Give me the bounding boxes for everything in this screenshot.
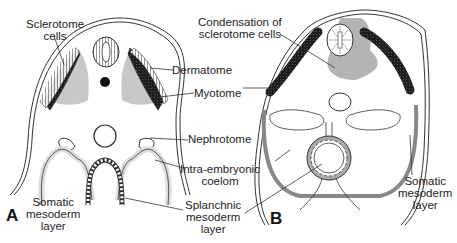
embryo-cross-section-diagram: Sclerotome cells Dermatome Myotome Nephr…	[0, 0, 457, 243]
panel-a-drawing	[10, 18, 194, 210]
notochord-a	[100, 77, 110, 87]
panel-label-b: B	[270, 209, 282, 229]
label-condensation-sclerotome-cells: Condensation of sclerotome cells	[198, 16, 282, 40]
label-somatic-mesoderm-layer-a: Somatic mesoderm layer	[26, 196, 80, 232]
myotome-left-b	[270, 32, 318, 92]
label-somatic-mesoderm-layer-b: Somatic mesoderm layer	[398, 175, 452, 211]
label-nephrotome: Nephrotome	[188, 133, 251, 145]
label-dermatome: Dermatome	[172, 64, 232, 76]
dorsal-aorta-a	[94, 125, 116, 147]
panel-label-a: A	[6, 206, 18, 226]
label-intra-embryonic-coelom: Intra-embryonic coelom	[180, 163, 260, 187]
label-splanchnic-mesoderm-layer: Splanchnic mesoderm layer	[185, 199, 241, 235]
label-sclerotome-cells: Sclerotome cells	[26, 18, 84, 42]
label-myotome: Myotome	[194, 87, 241, 99]
